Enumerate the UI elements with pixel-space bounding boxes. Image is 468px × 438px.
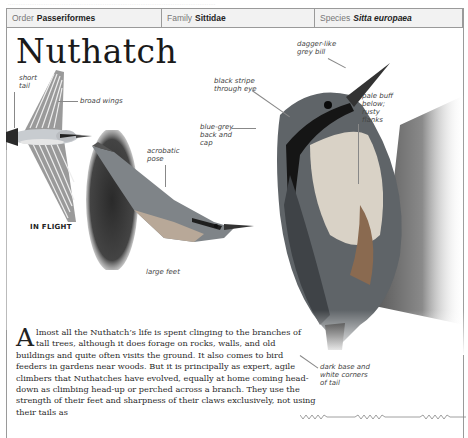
main-nuthatch-illustration: [250, 55, 465, 355]
order-label: Order: [12, 13, 34, 23]
leader-short-tail: [14, 92, 15, 128]
lower-wing: [26, 140, 76, 222]
label-short-tail: short tail: [19, 74, 37, 90]
bird-body: [6, 128, 92, 146]
label-dagger-bill: dagger-like grey bill: [297, 40, 336, 56]
body-text: lmost all the Nuthatch’s life is spent c…: [16, 327, 316, 417]
order-value: Passeriformes: [37, 13, 96, 23]
label-pale-buff: pale buff below; rusty flanks: [362, 92, 393, 124]
leader-broad-wings: [58, 101, 78, 102]
label-acrobatic-pose: acrobatic pose: [147, 147, 180, 163]
label-dark-base: dark base and white corners of tail: [320, 363, 370, 387]
taxonomy-header: Order Passeriformes Family Sittidae Spec…: [6, 8, 463, 28]
family-label: Family: [167, 13, 192, 23]
body-paragraph: A lmost all the Nuthatch’s life is spent…: [16, 327, 316, 418]
leader-pale-buff: [358, 124, 359, 184]
song-waveform-icon: [300, 412, 466, 422]
leader-tail-long: [6, 150, 7, 330]
family-value: Sittidae: [195, 13, 226, 23]
family-cell: Family Sittidae: [162, 9, 315, 27]
bleed-through-text: ........................................…: [8, 0, 216, 6]
flight-caption: IN FLIGHT: [30, 223, 72, 231]
order-cell: Order Passeriformes: [7, 9, 162, 27]
leader-blue-grey: [232, 128, 256, 129]
species-label: Species: [320, 13, 350, 23]
label-black-stripe: black stripe through eye: [214, 77, 257, 93]
species-cell: Species Sitta europaea: [315, 9, 462, 27]
label-broad-wings: broad wings: [80, 97, 123, 105]
label-blue-grey: blue-grey back and cap: [200, 123, 233, 147]
drop-cap: A: [16, 327, 34, 348]
species-value: Sitta europaea: [353, 13, 412, 23]
leader-acrobatic-pose: [165, 165, 166, 187]
label-large-feet: large feet: [146, 268, 180, 276]
